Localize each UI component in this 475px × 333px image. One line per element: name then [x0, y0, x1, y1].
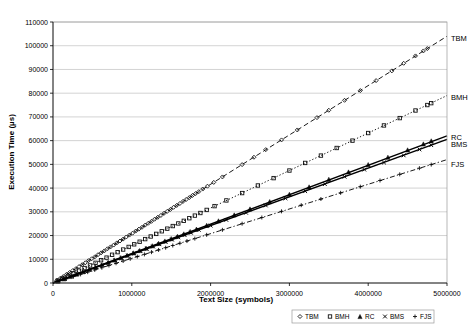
chart-legend: TBMBMHRCBMSFJS [292, 310, 434, 323]
data-point-fjs [240, 222, 244, 226]
gridlines [53, 22, 447, 259]
chart-container: 0100002000030000400005000060000700008000… [0, 0, 475, 333]
plot-area-border [53, 22, 447, 283]
data-point-tbm [315, 116, 319, 120]
trendline-fjs [53, 160, 447, 283]
data-point-tbm [212, 180, 216, 184]
x-tick-label: 1000000 [118, 290, 145, 297]
legend-label-rc: RC [365, 313, 375, 320]
data-point-bmh [367, 131, 370, 134]
data-point-bmh [188, 217, 191, 220]
x-tick-label: 5000000 [433, 290, 460, 297]
y-tick-label: 50000 [29, 161, 49, 168]
y-tick-label: 110000 [25, 19, 48, 26]
series-end-label-tbm: TBM [451, 34, 467, 43]
y-tick-label: 0 [44, 280, 48, 287]
data-point-bmh [414, 109, 417, 112]
data-point-tbm [280, 138, 284, 142]
legend-label-bmh: BMH [335, 313, 350, 320]
trendline-bmh [53, 96, 447, 283]
y-tick-label: 70000 [29, 113, 49, 120]
y-tick-label: 90000 [29, 66, 49, 73]
data-point-bmh [121, 248, 124, 251]
y-axis-tick-labels: 0100002000030000400005000060000700008000… [25, 19, 48, 287]
data-point-bmh [143, 237, 146, 240]
data-point-bmh [127, 245, 130, 248]
x-tick-label: 4000000 [355, 290, 382, 297]
data-point-bmh [77, 269, 80, 272]
y-tick-label: 40000 [29, 185, 49, 192]
y-tick-label: 20000 [29, 232, 49, 239]
y-tick-label: 30000 [29, 208, 49, 215]
data-point-bmh [105, 256, 108, 259]
scatter-plot: 0100002000030000400005000060000700008000… [0, 0, 475, 333]
y-tick-label: 80000 [29, 90, 49, 97]
y-tick-label: 100000 [25, 42, 48, 49]
y-axis-title: Execution Time (µs) [7, 114, 16, 190]
series-end-labels: TBMBMHRCBMSFJS [451, 34, 468, 169]
data-point-bmh [430, 101, 433, 104]
x-axis-title: Text Size (symbols) [199, 295, 273, 304]
legend-label-bms: BMS [390, 313, 405, 320]
data-point-tbm [252, 155, 256, 159]
data-point-bmh [88, 264, 91, 267]
x-tick-label: 3000000 [276, 290, 303, 297]
y-tick-label: 60000 [29, 137, 49, 144]
series-end-label-bmh: BMH [451, 93, 468, 102]
x-tick-label: 0 [51, 290, 55, 297]
data-point-bmh [155, 232, 158, 235]
legend-label-tbm: TBM [305, 313, 319, 320]
data-point-bmh [160, 230, 163, 233]
data-point-bmh [182, 219, 185, 222]
data-point-bmh [205, 208, 208, 211]
data-point-bmh [240, 191, 243, 194]
y-tick-label: 10000 [29, 256, 49, 263]
legend-label-fjs: FJS [420, 313, 432, 320]
series-end-label-fjs: FJS [451, 160, 464, 169]
data-point-bmh [83, 266, 86, 269]
data-point-bmh [256, 184, 259, 187]
data-point-bmh [319, 154, 322, 157]
trendline-bms [53, 139, 447, 283]
series-end-label-bms: BMS [451, 140, 467, 149]
